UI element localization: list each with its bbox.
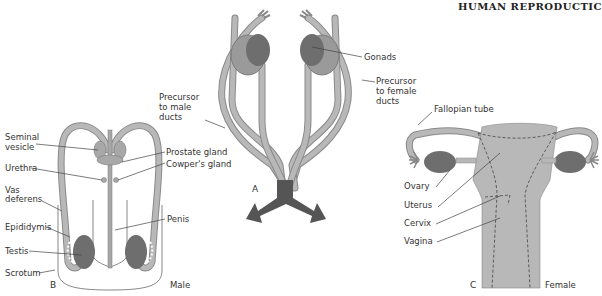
label-precursor-male: Precursor xyxy=(159,92,200,102)
label-cervix: Cervix xyxy=(404,218,431,228)
uterus xyxy=(473,123,557,288)
panel-c: Fallopian tube Ovary Uterus Cervix Vagin… xyxy=(404,104,599,290)
label-ovary: Ovary xyxy=(404,181,429,191)
letter-b: B xyxy=(50,280,56,290)
letter-a: A xyxy=(252,184,259,194)
label-gonads: Gonads xyxy=(364,52,397,62)
svg-text:deferens: deferens xyxy=(5,194,43,204)
label-urethra: Urethra xyxy=(5,163,37,173)
svg-text:to female: to female xyxy=(376,86,417,96)
label-penis: Penis xyxy=(167,214,190,224)
svg-text:to male: to male xyxy=(159,102,191,112)
label-testis: Testis xyxy=(4,246,29,256)
caption-male: Male xyxy=(170,280,190,290)
reproduction-diagram: Gonads Precursor to female ducts Precurs… xyxy=(0,0,602,296)
left-gonad xyxy=(246,34,270,66)
label-prostate-gland: Prostate gland xyxy=(166,147,227,157)
right-gonad xyxy=(300,34,324,66)
left-ovary xyxy=(424,151,456,173)
label-uterus: Uterus xyxy=(404,200,433,210)
left-testis xyxy=(73,235,95,269)
letter-c: C xyxy=(470,280,476,290)
svg-text:ducts: ducts xyxy=(376,96,400,106)
label-precursor-female: Precursor xyxy=(376,76,417,86)
label-scrotum: Scrotum xyxy=(5,268,41,278)
caption-female: Female xyxy=(545,280,576,290)
panel-b: Seminal vesicle Urethra Vas deferens Epi… xyxy=(4,126,231,290)
svg-text:ducts: ducts xyxy=(159,112,183,122)
label-seminal-vesicle: Seminal xyxy=(5,132,39,142)
label-vagina: Vagina xyxy=(404,236,433,246)
label-epididymis: Epididymis xyxy=(5,222,52,232)
svg-text:vesicle: vesicle xyxy=(5,142,34,152)
right-ovary xyxy=(554,151,586,173)
label-cowpers-gland: Cowper's gland xyxy=(166,159,231,169)
label-fallopian-tube: Fallopian tube xyxy=(434,104,494,114)
right-testis xyxy=(125,235,147,269)
